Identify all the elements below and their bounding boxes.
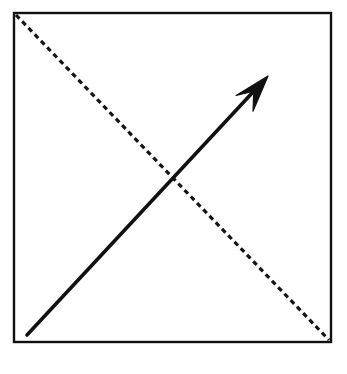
- figure-background: [0, 0, 347, 374]
- figure-root: [0, 0, 347, 374]
- diagram-canvas: [0, 0, 347, 374]
